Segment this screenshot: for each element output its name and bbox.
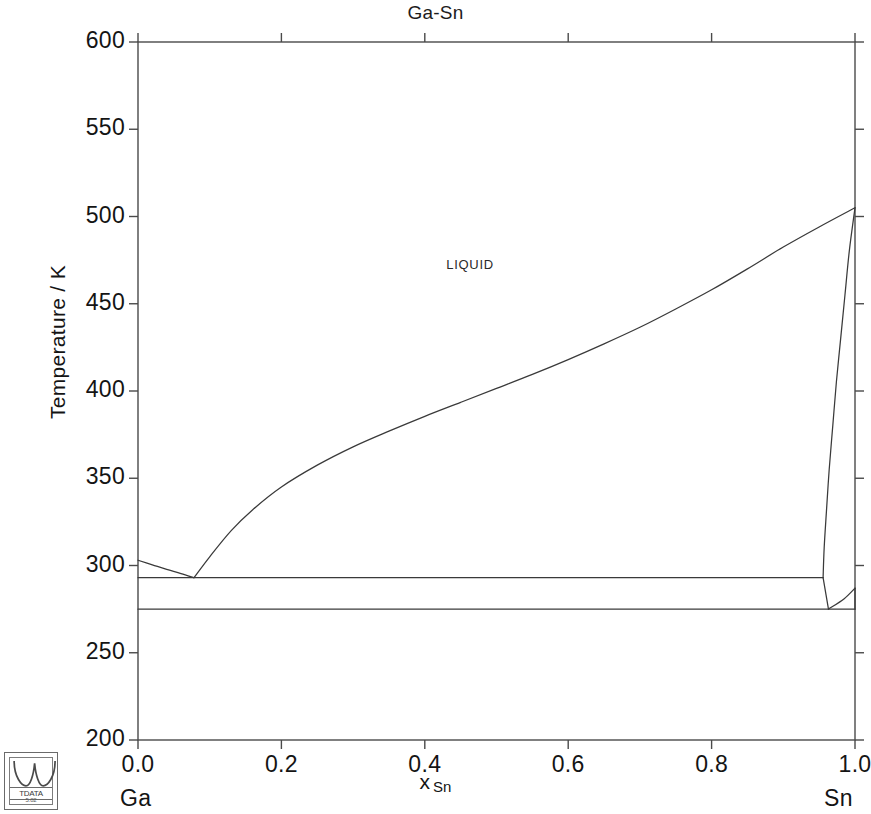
y-tick-label: 250	[15, 638, 125, 665]
phase-region-label: LIQUID	[446, 257, 494, 272]
curve-0	[138, 560, 194, 577]
phase-boundary-curves	[138, 208, 855, 609]
plot-canvas	[0, 0, 871, 814]
y-tick-label: 200	[15, 725, 125, 752]
curve-6	[828, 588, 855, 609]
curve-5	[823, 578, 828, 609]
y-tick-label: 300	[15, 551, 125, 578]
axes-frame	[138, 42, 855, 740]
y-tick-label: 400	[15, 376, 125, 403]
axis-end-label-sn: Sn	[824, 785, 853, 812]
y-tick-label: 350	[15, 463, 125, 490]
phase-diagram-figure: Ga-Sn 200250300350400450500550600 0.00.2…	[0, 0, 871, 814]
tdata-logo: TDATA 5.02	[4, 752, 58, 810]
curve-1	[194, 208, 855, 578]
y-tick-label: 600	[15, 27, 125, 54]
y-tick-label: 550	[15, 114, 125, 141]
tick-marks	[129, 33, 864, 749]
y-tick-label: 450	[15, 289, 125, 316]
curve-2	[823, 208, 855, 578]
y-axis-title: Temperature / K	[46, 192, 70, 492]
x-axis-title-subscript: Sn	[430, 778, 451, 795]
axis-end-label-ga: Ga	[120, 785, 151, 812]
tdata-logo-version: 5.02	[10, 797, 52, 803]
tdata-logo-mark-icon	[12, 760, 59, 788]
y-tick-label: 500	[15, 202, 125, 229]
x-axis-title-main: x	[420, 770, 431, 793]
tdata-logo-border: TDATA 5.02	[9, 757, 53, 805]
